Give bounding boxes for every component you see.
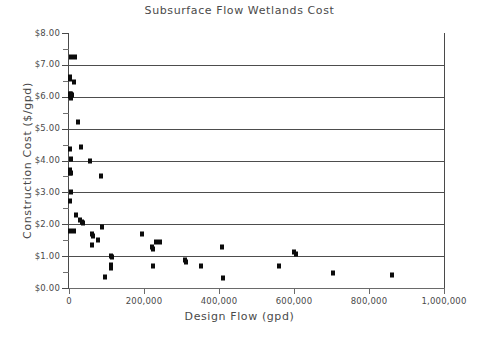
y-axis-tick-label: $5.00 — [14, 123, 60, 133]
data-point — [277, 264, 281, 269]
data-point — [73, 54, 77, 59]
data-point — [79, 145, 83, 150]
data-point — [96, 238, 100, 243]
y-axis-tick-label: $2.00 — [14, 219, 60, 229]
x-axis-tick — [369, 289, 370, 294]
data-point — [69, 54, 73, 59]
data-point — [199, 263, 203, 268]
data-point — [158, 240, 162, 245]
y-axis-tick — [62, 224, 69, 225]
data-point — [68, 147, 72, 152]
data-point — [69, 189, 73, 194]
data-point — [220, 244, 224, 249]
y-axis-minor-tick — [63, 113, 69, 114]
y-axis-tick-label: $0.00 — [14, 283, 60, 293]
x-axis-tick — [144, 289, 145, 294]
y-axis-minor-tick — [63, 49, 69, 50]
x-axis-tick-label: 400,000 — [201, 296, 238, 306]
y-axis-tick-label: $1.00 — [14, 251, 60, 261]
y-axis-tick — [62, 288, 69, 289]
y-axis-tick — [62, 256, 69, 257]
x-axis-tick-label: 1,000,000 — [421, 296, 466, 306]
data-point — [151, 247, 155, 252]
data-point — [68, 228, 72, 233]
y-axis-tick — [62, 33, 69, 34]
data-point — [88, 159, 92, 164]
gridline — [69, 256, 444, 257]
gridline — [69, 224, 444, 225]
data-point — [140, 232, 144, 237]
y-axis-minor-tick — [63, 240, 69, 241]
plot-area — [69, 33, 444, 288]
data-point — [81, 220, 85, 225]
data-point — [91, 234, 95, 239]
y-axis-minor-tick — [63, 208, 69, 209]
y-axis-minor-tick — [63, 145, 69, 146]
y-axis-tick-label: $7.00 — [14, 59, 60, 69]
x-axis-title: Design Flow (gpd) — [0, 310, 479, 323]
x-axis-tick-label: 600,000 — [276, 296, 313, 306]
y-axis-minor-tick — [63, 176, 69, 177]
y-axis-tick-label: $3.00 — [14, 187, 60, 197]
x-axis-tick-label: 200,000 — [126, 296, 163, 306]
x-axis-line — [68, 288, 445, 289]
data-point — [390, 272, 394, 277]
data-point — [110, 255, 114, 260]
data-point — [103, 274, 107, 279]
data-point — [72, 229, 76, 234]
data-point — [100, 225, 104, 230]
data-point — [184, 259, 188, 264]
data-point — [221, 276, 225, 281]
data-point — [109, 265, 113, 270]
data-point — [74, 212, 78, 217]
data-point — [294, 251, 298, 256]
data-point — [90, 242, 94, 247]
y-axis-tick — [62, 65, 69, 66]
gridline — [69, 192, 444, 193]
chart-figure: Subsurface Flow Wetlands Cost Constructi… — [0, 0, 479, 340]
data-point — [68, 199, 72, 204]
x-axis-tick — [294, 289, 295, 294]
x-axis-tick — [219, 289, 220, 294]
gridline — [69, 65, 444, 66]
y-axis-tick-label: $8.00 — [14, 28, 60, 38]
x-axis-tick — [444, 289, 445, 294]
gridline — [69, 129, 444, 130]
x-axis-tick-label: 0 — [66, 296, 72, 306]
y-axis-tick-label: $4.00 — [14, 155, 60, 165]
data-point — [151, 263, 155, 268]
y-axis-minor-tick — [63, 272, 69, 273]
chart-title: Subsurface Flow Wetlands Cost — [0, 4, 479, 17]
data-point — [70, 93, 74, 98]
plot-right-border — [444, 33, 445, 289]
y-axis-tick-label: $6.00 — [14, 91, 60, 101]
x-axis-tick — [69, 289, 70, 294]
x-axis-tick-label: 800,000 — [351, 296, 388, 306]
data-point — [331, 271, 335, 276]
data-point — [69, 156, 73, 161]
data-point — [99, 174, 103, 179]
y-axis-tick — [62, 129, 69, 130]
gridline — [69, 161, 444, 162]
gridline — [69, 97, 444, 98]
data-point — [76, 119, 80, 124]
data-point — [72, 80, 76, 85]
data-point — [69, 171, 73, 176]
